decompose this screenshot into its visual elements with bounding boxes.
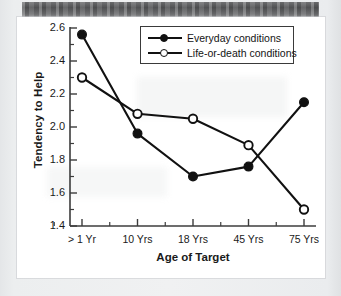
data-point-marker <box>78 73 86 81</box>
data-point-marker <box>300 98 309 107</box>
y-tick-label: 2.0 <box>31 120 65 132</box>
x-tick-label: 18 Yrs <box>163 233 223 245</box>
filled-circle-marker-icon <box>147 31 183 45</box>
series-line <box>82 78 304 210</box>
legend-item-everyday: Everyday conditions <box>141 30 293 45</box>
legend-label: Everyday conditions <box>183 32 281 44</box>
data-point-marker <box>189 172 198 181</box>
legend-item-life-or-death: Life-or-death conditions <box>141 45 293 60</box>
x-tick-label: 75 Yrs <box>274 233 334 245</box>
y-tick-label: 2.6 <box>31 21 65 33</box>
x-tick-label: 10 Yrs <box>108 233 168 245</box>
scan-shadow-band <box>22 2 319 18</box>
data-point-marker <box>189 115 197 123</box>
y-tick-label: 1.8 <box>31 153 65 165</box>
y-tick-label: 2.2 <box>31 87 65 99</box>
legend-label: Life-or-death conditions <box>183 47 297 59</box>
data-point-marker <box>244 141 252 149</box>
y-tick-label: 2.4 <box>31 54 65 66</box>
chart-legend: Everyday conditions Life-or-death condit… <box>140 26 294 64</box>
data-point-marker <box>300 205 308 213</box>
x-tick-label: > 1 Yr <box>52 233 112 245</box>
data-point-marker <box>133 110 141 118</box>
x-axis-title: Age of Target <box>70 251 316 263</box>
y-tick-label: 1.4 <box>31 219 65 231</box>
data-point-marker <box>133 129 142 138</box>
open-circle-marker-icon <box>147 46 183 60</box>
data-point-marker <box>78 30 87 39</box>
y-tick-label: 1.6 <box>31 186 65 198</box>
figure-panel: Tendency to Help Age of Target Everyday … <box>17 17 325 278</box>
x-tick-label: 45 Yrs <box>219 233 279 245</box>
data-point-marker <box>244 162 253 171</box>
